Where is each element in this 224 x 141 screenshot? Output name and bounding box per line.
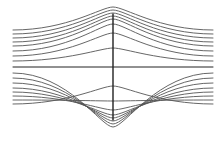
- streamline-diagram: [0, 0, 224, 141]
- diagram-svg: [0, 0, 224, 141]
